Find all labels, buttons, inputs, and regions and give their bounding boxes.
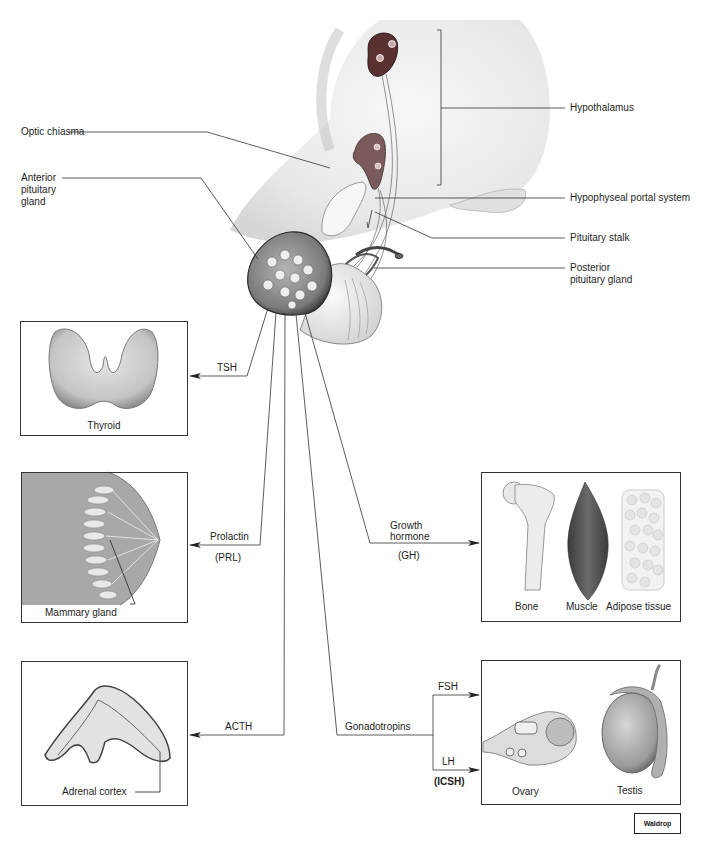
label-ovary: Ovary [512,786,539,798]
label-testis: Testis [617,785,643,797]
label-portal-system: Hypophyseal portal system [570,192,690,204]
label-prolactin-abbr: (PRL) [215,552,241,564]
label-acth: ACTH [225,721,252,733]
growth-targets-box [481,472,681,622]
label-hypothalamus: Hypothalamus [570,102,634,114]
label-adipose-tissue: Adipose tissue [606,601,671,613]
label-growth-hormone-abbr: (GH) [398,550,420,562]
label-posterior-pituitary-line1: Posterior [570,262,610,274]
label-pituitary-stalk: Pituitary stalk [570,232,629,244]
label-lh-abbr: (ICSH) [434,776,465,788]
label-muscle: Muscle [566,601,598,613]
label-mammary-gland: Mammary gland [45,607,117,619]
adrenal-box [21,661,188,806]
label-anterior-pituitary-line3: gland [21,196,45,208]
credit-badge: Waldrop [634,813,681,834]
label-prolactin: Prolactin [210,531,249,543]
label-anterior-pituitary-line1: Anterior [21,172,56,184]
mammary-box [21,472,188,623]
gonads-box [481,660,681,805]
label-lh: LH [442,756,455,768]
label-tsh: TSH [217,362,237,374]
anterior-pituitary-shape [248,232,332,315]
label-growth-hormone-line2: hormone [390,531,429,543]
label-adrenal-cortex: Adrenal cortex [62,786,126,798]
label-gonadotropins: Gonadotropins [345,721,411,733]
label-thyroid: Thyroid [20,420,188,432]
label-bone: Bone [515,601,538,613]
label-posterior-pituitary-line2: pituitary gland [570,274,632,286]
label-fsh: FSH [438,681,458,693]
thyroid-box [20,321,188,436]
label-optic-chiasma: Optic chiasma [21,126,84,138]
label-anterior-pituitary-line2: pituitary [21,184,56,196]
